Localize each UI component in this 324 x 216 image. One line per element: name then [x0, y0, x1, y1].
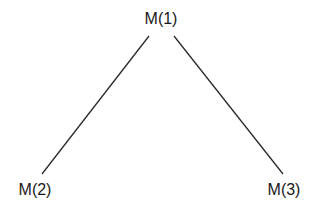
edge-m1-m3 [174, 36, 283, 174]
node-m3-label: M(3) [268, 182, 301, 198]
edge-m1-m2 [42, 36, 149, 174]
tree-diagram: M(1) M(2) M(3) [0, 0, 324, 216]
node-m2-label: M(2) [19, 182, 52, 198]
node-m1-label: M(1) [145, 11, 178, 27]
